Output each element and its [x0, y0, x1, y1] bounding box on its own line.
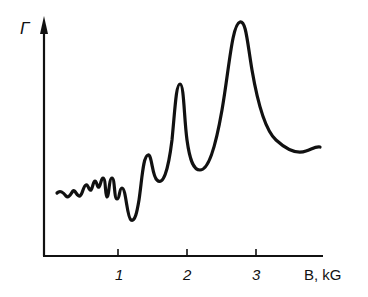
chart-canvas: 1 2 3 B, kG Γ [0, 0, 368, 297]
x-tick-label-3: 3 [252, 266, 261, 283]
data-curve [57, 22, 320, 220]
x-axis-label: B, kG [304, 266, 342, 283]
x-tick-label-2: 2 [182, 266, 192, 283]
y-axis-arrow-icon [40, 16, 48, 34]
x-tick-label-1: 1 [115, 266, 123, 283]
y-axis-label: Γ [20, 19, 31, 38]
